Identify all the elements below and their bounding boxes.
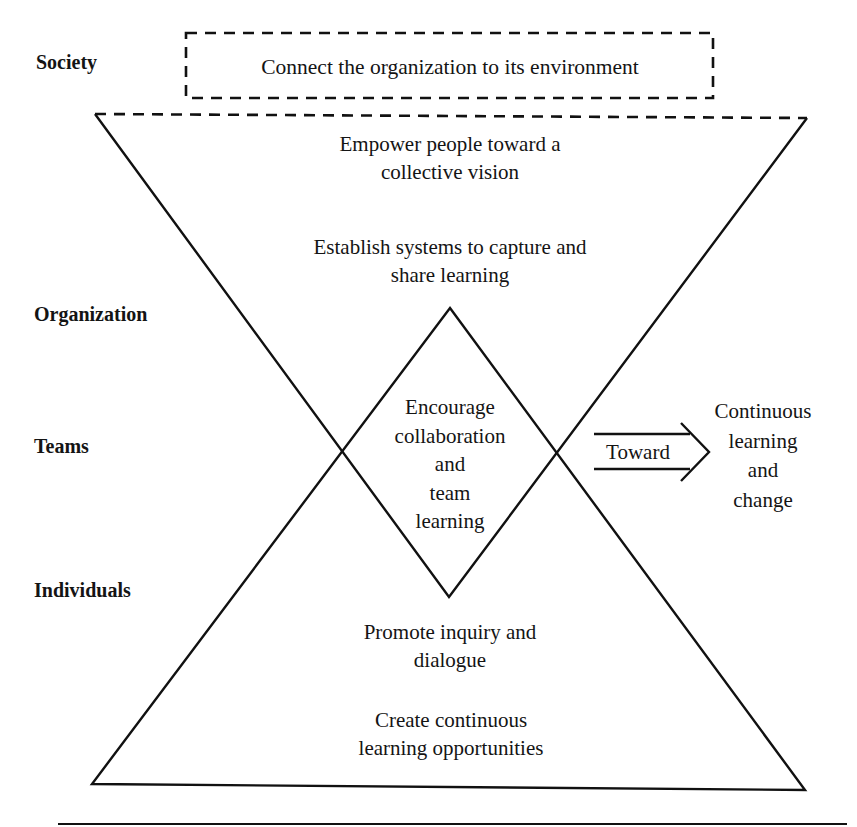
diamond-line: Encourage [395,393,506,422]
upper-triangle-top-edge [95,114,807,118]
society-box-text: Connect the organization to its environm… [261,53,639,81]
statement-line: Create continuous [359,706,544,734]
outcome-line: Continuous [715,397,812,427]
statement-line: dialogue [364,646,537,674]
statement-create-opportunities: Create continuous learning opportunities [359,706,544,762]
outcome-line: learning [715,427,812,457]
level-label-individuals: Individuals [34,578,131,602]
statement-promote-inquiry: Promote inquiry and dialogue [364,618,537,674]
diamond-line: learning [395,507,506,536]
outcome-line: change [715,486,812,516]
diamond-line: collaboration [395,422,506,451]
statement-line: learning opportunities [359,734,544,762]
level-label-teams: Teams [34,434,89,458]
statement-line: Establish systems to capture and [314,233,587,261]
arrow-label-toward: Toward [606,438,670,466]
statement-line: Empower people toward a [339,130,560,158]
statement-line: share learning [314,261,587,289]
diamond-line: team [395,479,506,508]
level-label-organization: Organization [34,302,147,326]
outcome-line: and [715,456,812,486]
diamond-line: and [395,450,506,479]
statement-empower-people: Empower people toward a collective visio… [339,130,560,186]
statement-establish-systems: Establish systems to capture and share l… [314,233,587,289]
statement-line: collective vision [339,158,560,186]
statement-encourage-collaboration: Encourage collaboration and team learnin… [395,393,506,536]
statement-line: Promote inquiry and [364,618,537,646]
outcome-continuous-learning: Continuous learning and change [715,397,812,515]
level-label-society: Society [36,50,97,74]
